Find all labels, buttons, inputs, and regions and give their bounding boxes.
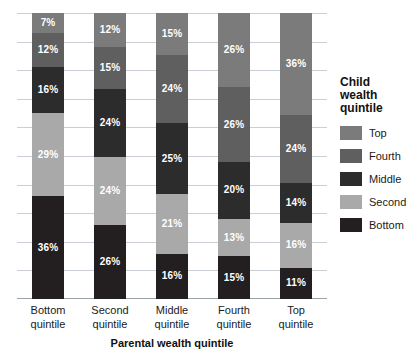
- bar-segment[interactable]: 26%: [94, 225, 126, 299]
- legend-item-label: Bottom: [369, 219, 404, 231]
- bar-segment-value-label: 24%: [162, 84, 182, 94]
- bar-segment[interactable]: 24%: [94, 89, 126, 157]
- bar-segment[interactable]: 16%: [156, 254, 188, 299]
- bar-segment-value-label: 36%: [38, 243, 58, 253]
- bar-segment-value-label: 7%: [41, 18, 56, 28]
- bar-segment[interactable]: 12%: [94, 13, 126, 47]
- bar-segment[interactable]: 15%: [218, 256, 250, 299]
- bar-segment-value-label: 36%: [286, 59, 306, 69]
- bar-segment[interactable]: 15%: [156, 13, 188, 55]
- bar-segment-value-label: 15%: [100, 63, 120, 73]
- legend: Child wealth quintile TopFourthMiddleSec…: [340, 76, 420, 240]
- bar-segment-value-label: 29%: [38, 150, 58, 160]
- bar-column[interactable]: 7%12%16%29%36%: [32, 13, 64, 299]
- bar-segment-value-label: 24%: [100, 118, 120, 128]
- bar-segment[interactable]: 26%: [218, 13, 250, 87]
- bar-segment-value-label: 26%: [100, 257, 120, 267]
- legend-title: Child wealth quintile: [340, 76, 400, 115]
- legend-swatch: [340, 149, 362, 163]
- legend-item-label: Middle: [369, 173, 401, 185]
- x-axis-tick-labels: BottomquintileSecondquintileMiddlequinti…: [17, 303, 327, 337]
- legend-swatch: [340, 195, 362, 209]
- stacked-bar-series: 7%12%16%29%36%12%15%24%24%26%15%24%25%21…: [17, 13, 327, 299]
- bar-segment-value-label: 15%: [224, 273, 244, 283]
- bar-segment-value-label: 20%: [224, 185, 244, 195]
- bar-segment-value-label: 26%: [224, 45, 244, 55]
- bar-segment[interactable]: 7%: [32, 13, 64, 33]
- bar-segment-value-label: 12%: [100, 25, 120, 35]
- bar-segment[interactable]: 26%: [218, 87, 250, 161]
- legend-item[interactable]: Bottom: [340, 217, 420, 232]
- bar-segment[interactable]: 14%: [280, 183, 312, 223]
- bar-segment[interactable]: 24%: [156, 55, 188, 123]
- bar-segment-value-label: 24%: [286, 144, 306, 154]
- chart-page: 7%12%16%29%36%12%15%24%24%26%15%24%25%21…: [0, 0, 420, 363]
- legend-item[interactable]: Second: [340, 194, 420, 209]
- legend-item[interactable]: Fourth: [340, 148, 420, 163]
- bar-segment[interactable]: 12%: [32, 33, 64, 67]
- legend-item[interactable]: Middle: [340, 171, 420, 186]
- bar-segment[interactable]: 13%: [218, 219, 250, 256]
- bar-segment[interactable]: 25%: [156, 123, 188, 194]
- bar-segment[interactable]: 16%: [280, 223, 312, 268]
- bar-segment-value-label: 16%: [38, 85, 58, 95]
- bar-segment-value-label: 13%: [224, 233, 244, 243]
- bar-segment[interactable]: 15%: [94, 47, 126, 89]
- bar-segment-value-label: 16%: [286, 240, 306, 250]
- legend-swatch: [340, 172, 362, 186]
- legend-swatch: [340, 218, 362, 232]
- bar-column[interactable]: 15%24%25%21%16%: [156, 13, 188, 299]
- bar-segment[interactable]: 24%: [280, 115, 312, 183]
- bar-segment[interactable]: 36%: [32, 196, 64, 299]
- x-tick-line-1: Top: [256, 303, 336, 317]
- bar-segment-value-label: 12%: [38, 45, 58, 55]
- legend-item[interactable]: Top: [340, 125, 420, 140]
- bar-segment-value-label: 16%: [162, 271, 182, 281]
- x-axis-tick-label: Topquintile: [256, 303, 336, 331]
- bar-segment-value-label: 26%: [224, 120, 244, 130]
- bar-segment-value-label: 15%: [162, 29, 182, 39]
- bar-segment[interactable]: 36%: [280, 13, 312, 115]
- bar-segment-value-label: 11%: [286, 278, 306, 288]
- bar-segment-value-label: 24%: [100, 186, 120, 196]
- bar-segment[interactable]: 24%: [94, 157, 126, 225]
- bar-segment-value-label: 25%: [162, 154, 182, 164]
- legend-items: TopFourthMiddleSecondBottom: [340, 125, 420, 232]
- bar-segment[interactable]: 20%: [218, 162, 250, 219]
- bar-segment-value-label: 14%: [286, 198, 306, 208]
- bar-column[interactable]: 26%26%20%13%15%: [218, 13, 250, 299]
- legend-item-label: Top: [369, 127, 387, 139]
- bar-column[interactable]: 12%15%24%24%26%: [94, 13, 126, 299]
- legend-title-line-3: quintile: [340, 102, 400, 115]
- bar-column[interactable]: 36%24%14%16%11%: [280, 13, 312, 299]
- bar-segment[interactable]: 11%: [280, 268, 312, 299]
- legend-item-label: Fourth: [369, 150, 401, 162]
- x-axis-title: Parental wealth quintile: [17, 337, 327, 349]
- bar-segment[interactable]: 21%: [156, 194, 188, 253]
- legend-item-label: Second: [369, 196, 406, 208]
- plot-area: 7%12%16%29%36%12%15%24%24%26%15%24%25%21…: [17, 13, 327, 299]
- bar-segment[interactable]: 29%: [32, 113, 64, 196]
- legend-swatch: [340, 126, 362, 140]
- x-tick-line-2: quintile: [256, 317, 336, 331]
- bar-segment[interactable]: 16%: [32, 67, 64, 113]
- bar-segment-value-label: 21%: [162, 219, 182, 229]
